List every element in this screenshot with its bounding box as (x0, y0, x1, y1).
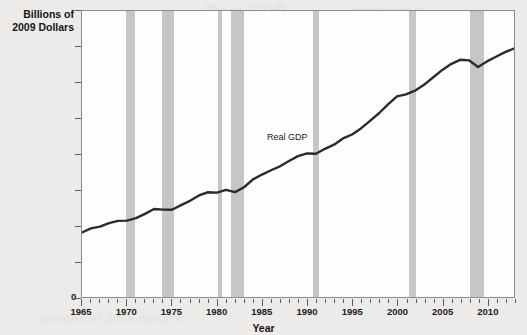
x-axis-tick-mark (379, 299, 380, 303)
real-gdp-chart-figure: Real GDP PPF 1965- of 2009 billions of 2… (0, 0, 527, 335)
x-axis-tick-mark (515, 299, 516, 303)
x-axis-tick-label-2000: 2000 (377, 306, 417, 317)
x-axis-tick-mark (352, 299, 353, 306)
plot-area (81, 10, 515, 298)
y-axis-title: Billions of 2009 Dollars (0, 8, 74, 33)
x-axis-tick-mark (262, 299, 263, 306)
x-axis-tick-mark (443, 299, 444, 306)
x-axis-tick-mark (298, 299, 299, 303)
real-gdp-line-series (82, 11, 514, 297)
x-axis-tick-mark (289, 299, 290, 303)
x-axis-tick-mark (488, 299, 489, 306)
x-axis-tick-mark (117, 299, 118, 303)
x-axis-tick-mark (144, 299, 145, 303)
x-axis-tick-mark (416, 299, 417, 303)
x-axis-tick-mark (271, 299, 272, 303)
x-axis-tick-mark (425, 299, 426, 303)
x-axis-tick-mark (81, 299, 82, 306)
x-axis-tick-mark (253, 299, 254, 303)
x-axis-tick-mark (397, 299, 398, 306)
x-axis-tick-label-1990: 1990 (287, 306, 327, 317)
x-axis-tick-mark (190, 299, 191, 303)
x-axis-tick-mark (506, 299, 507, 303)
x-axis-tick-mark (334, 299, 335, 303)
x-axis-tick-mark (370, 299, 371, 303)
x-axis-tick-mark (452, 299, 453, 303)
x-axis-tick-label-1965: 1965 (61, 306, 101, 317)
x-axis-tick-mark (217, 299, 218, 306)
x-axis-tick-mark (90, 299, 91, 303)
x-axis-tick-label-2005: 2005 (423, 306, 463, 317)
x-axis-tick-mark (407, 299, 408, 303)
x-axis-title: Year (0, 322, 527, 334)
x-axis-tick-mark (461, 299, 462, 303)
series-annotation-real-gdp: Real GDP (267, 132, 308, 142)
x-axis-tick-label-1980: 1980 (197, 306, 237, 317)
x-axis-tick-mark (343, 299, 344, 303)
x-axis-tick-mark (307, 299, 308, 306)
x-axis-tick-label-1985: 1985 (242, 306, 282, 317)
x-axis-tick-mark (388, 299, 389, 303)
x-axis-tick-mark (99, 299, 100, 303)
x-axis-tick-mark (126, 299, 127, 306)
x-axis-tick-mark (497, 299, 498, 303)
x-axis-tick-mark (208, 299, 209, 303)
x-axis-tick-label-2010: 2010 (468, 306, 508, 317)
x-axis-tick-mark (199, 299, 200, 303)
x-axis-tick-mark (434, 299, 435, 303)
x-axis-tick-mark (180, 299, 181, 303)
x-axis-tick-mark (316, 299, 317, 303)
x-axis-tick-mark (171, 299, 172, 306)
x-axis-tick-label-1995: 1995 (332, 306, 372, 317)
x-axis-tick-label-1970: 1970 (106, 306, 146, 317)
x-axis-tick-mark (361, 299, 362, 303)
x-axis-tick-mark (470, 299, 471, 303)
x-axis-tick-mark (153, 299, 154, 303)
x-axis-tick-mark (162, 299, 163, 303)
y-axis-title-line-1: Billions of (23, 8, 74, 20)
axis-origin-label: 0 (71, 291, 76, 302)
x-axis-tick-mark (108, 299, 109, 303)
x-axis-tick-mark (135, 299, 136, 303)
x-axis-tick-mark (235, 299, 236, 303)
x-axis-tick-mark (479, 299, 480, 303)
x-axis-tick-mark (226, 299, 227, 303)
y-axis-title-line-2: 2009 Dollars (12, 21, 74, 33)
x-axis-tick-mark (244, 299, 245, 303)
x-axis-tick-label-1975: 1975 (151, 306, 191, 317)
x-axis-tick-mark (280, 299, 281, 303)
x-axis-tick-mark (325, 299, 326, 303)
